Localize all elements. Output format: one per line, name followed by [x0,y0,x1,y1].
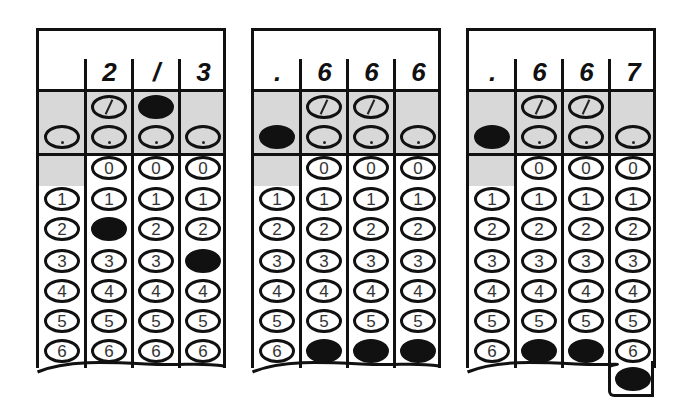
digit-bubble-2[interactable]: 2 [259,217,295,241]
digit-bubble-3[interactable]: 3 [521,249,557,273]
digit-bubble-1[interactable]: 1 [138,187,174,211]
digit-bubble-2[interactable]: 2 [568,217,604,241]
digit-bubble-3[interactable]: 3 [44,249,80,273]
column-divider [178,92,181,368]
digit-bubble-1[interactable]: 1 [353,187,389,211]
header-cell: 6 [563,55,610,89]
column-divider [299,59,302,89]
header-cell: 6 [301,55,348,89]
digit-bubble-0[interactable]: 0 [400,156,436,180]
digit-bubble-4[interactable]: 4 [44,279,80,303]
digit-bubble-3[interactable]: 3 [474,249,510,273]
decimal-bubble[interactable] [91,125,127,149]
digit-bubble-0[interactable]: 0 [91,156,127,180]
digit-bubble-0[interactable]: 0 [353,156,389,180]
digit-bubble-2[interactable]: 2 [138,217,174,241]
digit-bubble-5[interactable]: 5 [91,309,127,333]
digit-bubble-3[interactable]: 3 [568,249,604,273]
digit-bubble-5[interactable]: 5 [185,309,221,333]
digit-bubble-4[interactable]: 4 [353,279,389,303]
digit-bubble-4[interactable]: 4 [400,279,436,303]
digit-bubble-0[interactable]: 0 [306,156,342,180]
digit-bubble-2[interactable]: 2 [353,217,389,241]
decimal-bubble[interactable] [568,125,604,149]
decimal-bubble[interactable] [44,125,80,149]
digit-bubble-4[interactable]: 4 [259,279,295,303]
decimal-bubble[interactable] [615,125,651,149]
digit-bubble-2[interactable] [91,217,127,241]
slash-bubble[interactable] [521,95,557,119]
digit-bubble-1[interactable]: 1 [44,187,80,211]
digit-bubble-2[interactable]: 2 [306,217,342,241]
digit-bubble-1[interactable]: 1 [400,187,436,211]
digit-bubble-5[interactable]: 5 [138,309,174,333]
digit-bubble-2[interactable]: 2 [44,217,80,241]
dot-glyph [538,141,541,144]
digit-bubble-1[interactable]: 1 [568,187,604,211]
digit-bubble-5[interactable]: 5 [306,309,342,333]
slash-bubble[interactable] [306,95,342,119]
digit-bubble-3[interactable]: 3 [353,249,389,273]
slash-glyph [105,99,114,114]
digit-bubble-5[interactable]: 5 [259,309,295,333]
digit-bubble-0[interactable]: 0 [185,156,221,180]
digit-bubble-4[interactable]: 4 [185,279,221,303]
digit-bubble-3[interactable]: 3 [259,249,295,273]
digit-bubble-0[interactable]: 0 [521,156,557,180]
digit-bubble-5[interactable]: 5 [474,309,510,333]
slash-bubble[interactable] [91,95,127,119]
digit-bubble-1[interactable]: 1 [185,187,221,211]
digit-bubble-5[interactable]: 5 [521,309,557,333]
header-cell: 7 [610,55,657,89]
digit-bubble-2[interactable]: 2 [400,217,436,241]
digit-bubble-1[interactable]: 1 [521,187,557,211]
digit-bubble-2[interactable]: 2 [185,217,221,241]
digit-bubble-2[interactable]: 2 [474,217,510,241]
decimal-bubble[interactable] [185,125,221,149]
digit-bubble-3[interactable]: 3 [400,249,436,273]
digit-bubble-3[interactable] [185,249,221,273]
digit-bubble-3[interactable]: 3 [615,249,651,273]
decimal-bubble[interactable] [259,125,295,149]
digit-bubble-5[interactable]: 5 [568,309,604,333]
digit-bubble-1[interactable]: 1 [474,187,510,211]
digit-bubble-3[interactable]: 3 [306,249,342,273]
digit-bubble-1[interactable]: 1 [91,187,127,211]
slash-bubble[interactable] [138,95,174,119]
slash-glyph [367,99,376,114]
decimal-bubble[interactable] [306,125,342,149]
digit-bubble-4[interactable]: 4 [521,279,557,303]
digit-bubble-4[interactable]: 4 [474,279,510,303]
decimal-bubble[interactable] [474,125,510,149]
grid-point-667: .6671234560123450123450123456 [466,28,656,368]
digit-bubble-3[interactable]: 3 [138,249,174,273]
digit-bubble-5[interactable]: 5 [44,309,80,333]
digit-bubble-2[interactable]: 2 [521,217,557,241]
slash-bubble[interactable] [353,95,389,119]
digit-bubble-1[interactable]: 1 [306,187,342,211]
column-divider [514,59,517,89]
decimal-bubble[interactable] [521,125,557,149]
digit-bubble-0[interactable]: 0 [615,156,651,180]
digit-bubble-4[interactable]: 4 [568,279,604,303]
digit-bubble-5[interactable]: 5 [353,309,389,333]
decimal-bubble[interactable] [138,125,174,149]
digit-bubble-4[interactable]: 4 [138,279,174,303]
digit-bubble-5[interactable]: 5 [400,309,436,333]
digit-bubble-0[interactable]: 0 [568,156,604,180]
column-divider [561,59,564,89]
digit-bubble-0[interactable]: 0 [138,156,174,180]
slash-bubble[interactable] [568,95,604,119]
digit-bubble-4[interactable]: 4 [306,279,342,303]
digit-bubble-4[interactable]: 4 [615,279,651,303]
digit-bubble-1[interactable]: 1 [615,187,651,211]
decimal-bubble[interactable] [400,125,436,149]
digit-bubble-4[interactable]: 4 [91,279,127,303]
digit-bubble-1[interactable]: 1 [259,187,295,211]
digit-bubble-3[interactable]: 3 [91,249,127,273]
digit-bubble-5[interactable]: 5 [615,309,651,333]
dot-glyph [370,141,373,144]
slash-glyph [582,99,591,114]
digit-bubble-2[interactable]: 2 [615,217,651,241]
decimal-bubble[interactable] [353,125,389,149]
